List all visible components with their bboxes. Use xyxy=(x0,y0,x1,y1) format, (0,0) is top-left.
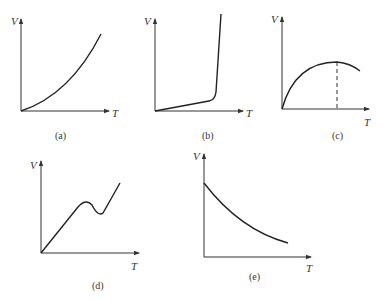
curve-a xyxy=(21,34,101,111)
curve-b xyxy=(155,14,221,111)
xlabel-c: T xyxy=(364,116,371,128)
panel-c: V T (c) xyxy=(271,13,371,142)
panel-b: V T (b) xyxy=(144,14,253,142)
caption-b: (b) xyxy=(202,130,214,142)
caption-d: (d) xyxy=(92,280,104,292)
curve-c xyxy=(282,62,360,109)
xlabel-d: T xyxy=(131,260,138,272)
panel-d: V T (d) xyxy=(30,159,139,292)
ylabel-c: V xyxy=(271,13,279,25)
curve-d xyxy=(41,183,120,253)
caption-e: (e) xyxy=(249,271,260,283)
caption-c: (c) xyxy=(332,130,343,142)
xlabel-b: T xyxy=(246,107,253,119)
ylabel-a: V xyxy=(11,15,19,27)
caption-a: (a) xyxy=(55,130,66,142)
panel-e: V T (e) xyxy=(193,150,313,283)
ylabel-d: V xyxy=(30,159,38,171)
figure-canvas: V T (a) V T (b) V T (c) V T (d) V T (e) xyxy=(0,0,382,300)
ylabel-e: V xyxy=(193,150,201,162)
xlabel-e: T xyxy=(306,262,313,274)
curve-e xyxy=(204,183,288,243)
panel-a: V T (a) xyxy=(11,15,119,142)
xlabel-a: T xyxy=(112,107,119,119)
ylabel-b: V xyxy=(144,15,152,27)
